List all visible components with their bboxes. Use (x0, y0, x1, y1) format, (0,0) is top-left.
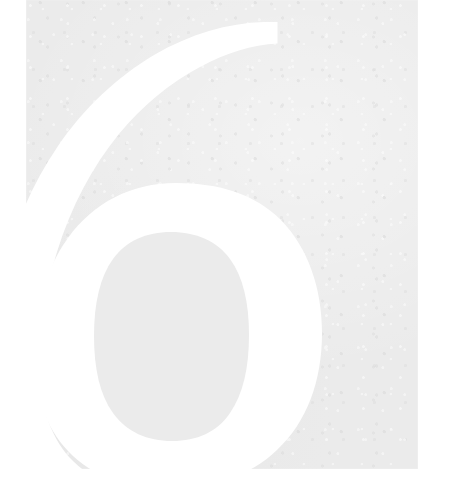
scanned-page-field (26, 0, 418, 469)
page-root: 6 (0, 0, 449, 504)
page-edge-highlight (26, 0, 418, 469)
paper-grain-texture (26, 0, 418, 469)
page-tonal-shading (26, 0, 418, 469)
